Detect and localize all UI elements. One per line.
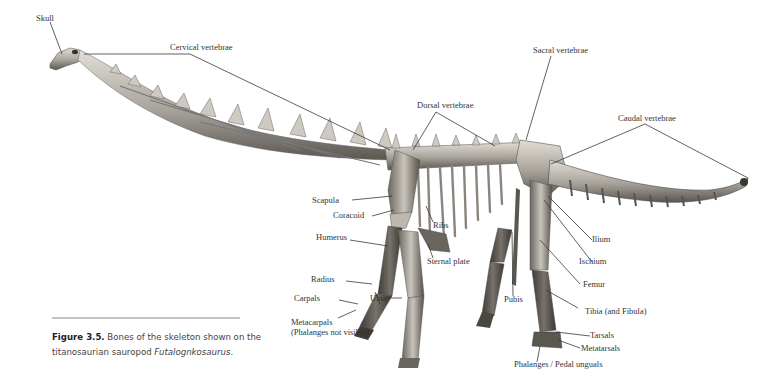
label-tarsals: Tarsals [590,331,614,341]
label-sacral-vertebrae: Sacral vertebrae [533,46,588,56]
caption-divider [52,317,240,319]
tail-vertebrae [548,160,748,207]
label-coracoid: Coracoid [333,211,364,221]
label-scapula: Scapula [312,196,339,206]
label-ilium: Ilium [592,235,610,245]
label-cervical-vertebrae: Cervical vertebrae [170,43,233,53]
label-ischium: Ischium [579,257,606,267]
label-metatarsals: Metatarsals [581,344,620,354]
label-caudal-vertebrae: Caudal vertebrae [618,114,676,124]
label-dorsal-vertebrae: Dorsal vertebrae [417,101,473,111]
label-metacarpals-note: (Phalanges not visible) [291,328,369,338]
label-radius: Radius [311,275,335,285]
caption-end: . [230,347,233,357]
species-name: Futalognkosaurus [154,347,230,357]
figure-number: Figure 3.5. [52,332,105,342]
ribs-bones [418,164,502,238]
label-femur: Femur [583,280,605,290]
label-skull: Skull [36,14,54,24]
label-phalanges-pedal-unguals: Phalanges / Pedal unguals [514,360,603,370]
label-sternal-plate: Sternal plate [427,257,470,267]
label-ulna: Ulna [370,294,387,304]
figure-caption: Figure 3.5. Bones of the skeleton shown … [52,330,262,359]
neck-vertebrae [78,50,392,165]
label-pubis: Pubis [504,295,523,305]
label-ribs: Ribs [433,221,449,231]
label-tibia-fibula: Tibia (and Fibula) [585,307,647,317]
skeleton-diagram: Skull Cervical vertebrae Dorsal vertebra… [0,0,776,392]
label-humerus: Humerus [316,233,347,243]
label-carpals: Carpals [294,294,320,304]
